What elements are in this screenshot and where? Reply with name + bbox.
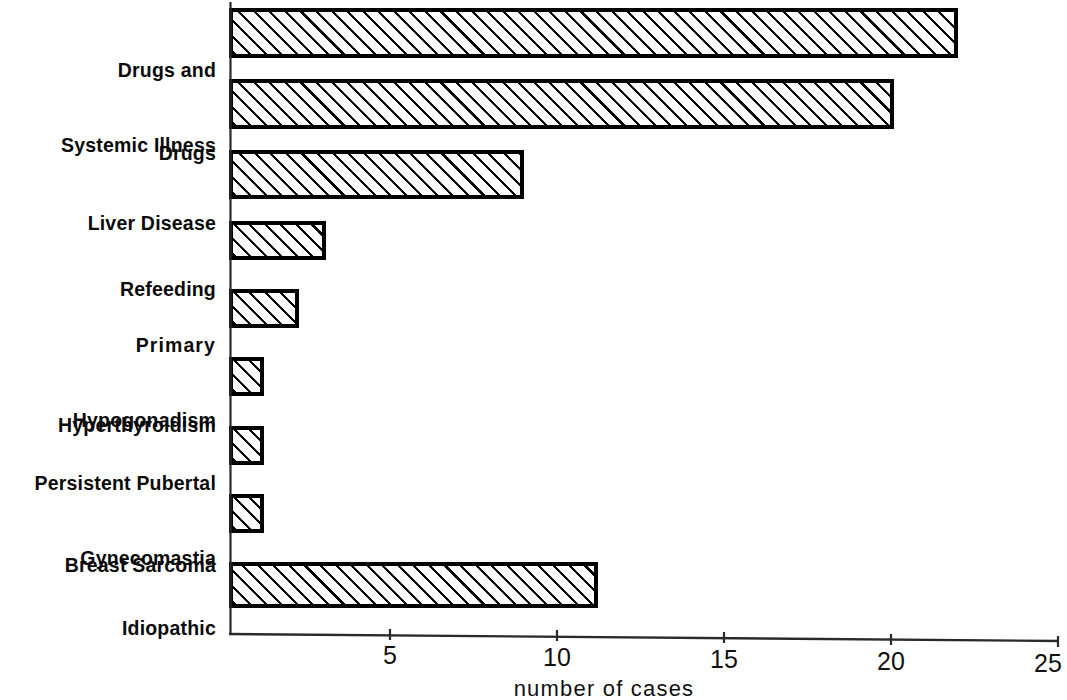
bar-drugs-and-systemic-illness xyxy=(229,8,958,58)
x-tick-label-25: 25 xyxy=(1034,649,1062,678)
bar-drugs xyxy=(229,79,894,129)
bar-primary-hypogonadism xyxy=(229,289,299,328)
bar-hyperthyroidism xyxy=(229,357,264,396)
x-tick-label-20: 20 xyxy=(877,647,905,676)
x-tick-label-15: 15 xyxy=(710,645,738,674)
bar-refeeding xyxy=(229,221,326,260)
bar-idiopathic xyxy=(229,562,598,608)
x-tick-label-5: 5 xyxy=(383,641,397,670)
x-axis-title: number of cases xyxy=(514,676,695,700)
bar-persistent-pubertal-gynecomastia xyxy=(229,426,264,465)
bar-liver-disease xyxy=(229,150,524,199)
x-tick-label-10: 10 xyxy=(543,643,571,672)
bar-breast-sarcoma xyxy=(229,494,264,533)
